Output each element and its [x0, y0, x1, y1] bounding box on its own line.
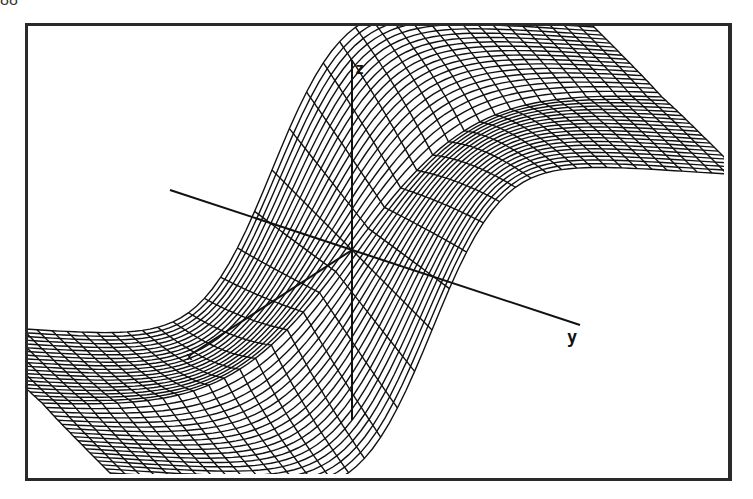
- mesh-line: [0, 25, 598, 348]
- axis-lines: [170, 60, 580, 420]
- mesh-line: [0, 16, 590, 340]
- y-axis-label: y: [567, 327, 577, 347]
- x-axis-label: x: [186, 350, 193, 363]
- wireframe-mesh: [0, 7, 742, 492]
- mesh-line: [0, 46, 618, 366]
- z-axis-label: z: [355, 60, 364, 78]
- surface-plot: z y x: [0, 0, 753, 499]
- mesh-line: [0, 20, 594, 344]
